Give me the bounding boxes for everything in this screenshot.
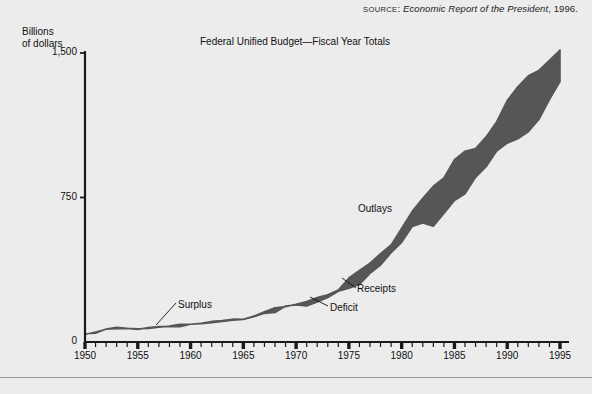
x-tick-label: 1965	[223, 350, 263, 361]
budget-band	[85, 50, 560, 334]
annotation-surplus: Surplus	[178, 299, 212, 310]
chart-plot-area	[0, 0, 592, 394]
leader-surplus	[156, 303, 176, 325]
x-tick-label: 1995	[540, 350, 580, 361]
annotation-outlays: Outlays	[358, 203, 392, 214]
figure-container: SOURCE: Economic Report of the President…	[0, 0, 592, 394]
annotation-deficit: Deficit	[330, 302, 358, 313]
x-tick-label: 1990	[487, 350, 527, 361]
y-tick-label: 0	[31, 335, 77, 346]
x-tick-label: 1955	[118, 350, 158, 361]
x-tick-label: 1970	[276, 350, 316, 361]
x-tick-label: 1960	[171, 350, 211, 361]
x-tick-label: 1950	[65, 350, 105, 361]
x-tick-label: 1985	[434, 350, 474, 361]
y-tick-label: 750	[31, 191, 77, 202]
x-tick-label: 1980	[382, 350, 422, 361]
annotation-receipts: Receipts	[357, 283, 396, 294]
y-tick-label: 1,500	[31, 46, 77, 57]
figure-bottom-rule	[0, 377, 592, 378]
x-tick-label: 1975	[329, 350, 369, 361]
